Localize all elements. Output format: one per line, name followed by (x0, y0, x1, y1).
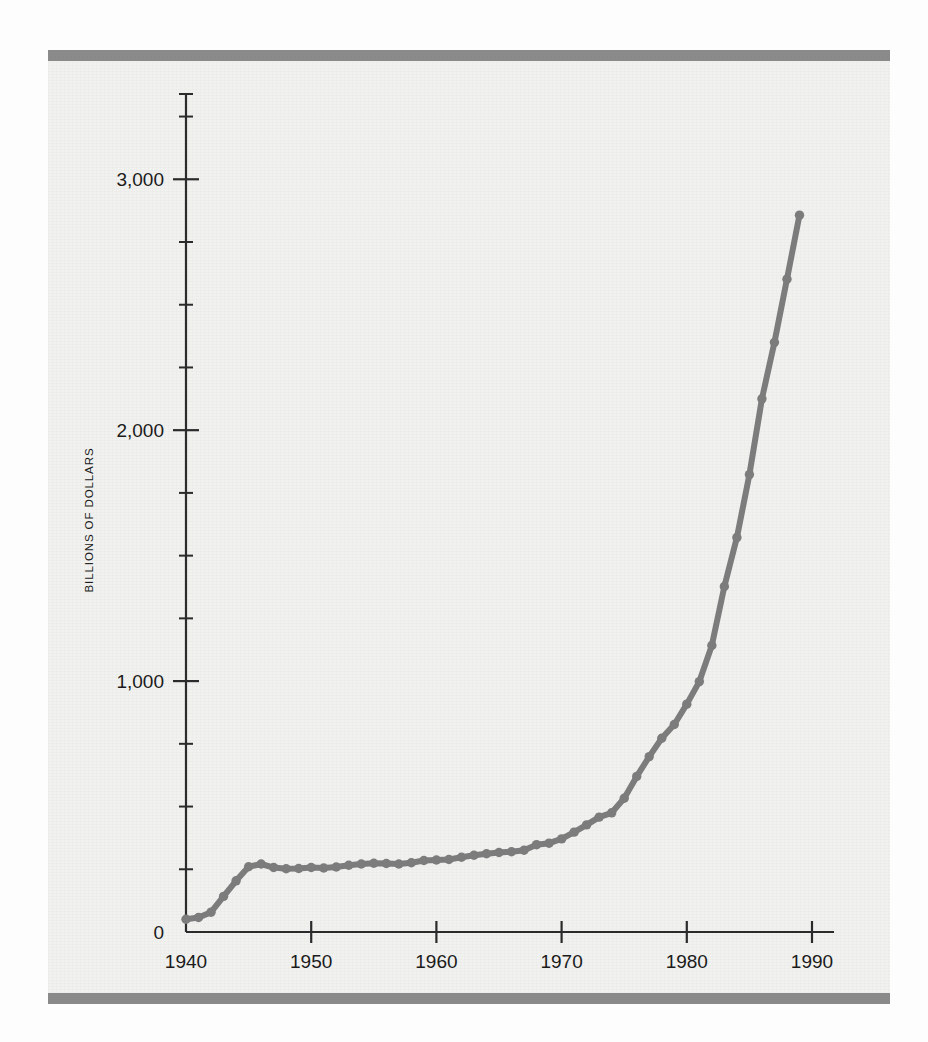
data-point (745, 470, 754, 479)
data-point (594, 812, 603, 821)
data-point (494, 848, 503, 857)
x-tick-label: 1950 (290, 951, 332, 972)
data-point (369, 859, 378, 868)
figure-page: 01,0002,0003,000194019501960197019801990… (0, 0, 928, 1042)
y-axis-title: BILLIONS OF DOLLARS (83, 448, 95, 593)
data-point (206, 907, 215, 916)
data-point (231, 876, 240, 885)
data-point (645, 752, 654, 761)
data-point (469, 851, 478, 860)
data-point (757, 394, 766, 403)
data-point (782, 274, 791, 283)
data-point (344, 861, 353, 870)
data-point (569, 827, 578, 836)
data-point (582, 820, 591, 829)
axis-layer (173, 94, 834, 943)
y-tick-label: 2,000 (116, 420, 164, 441)
data-point (607, 808, 616, 817)
data-point (795, 210, 804, 219)
data-point (482, 849, 491, 858)
data-line-0 (186, 215, 799, 919)
x-tick-label: 1980 (666, 951, 708, 972)
data-point (307, 863, 316, 872)
data-point (332, 862, 341, 871)
bottom-rule (48, 993, 890, 1004)
data-point (720, 582, 729, 591)
data-point (294, 864, 303, 873)
data-point (695, 677, 704, 686)
data-point (407, 858, 416, 867)
data-point (532, 840, 541, 849)
x-tick-label: 1940 (165, 951, 207, 972)
data-point (682, 699, 691, 708)
line-chart: 01,0002,0003,000194019501960197019801990… (0, 0, 928, 1042)
data-point (394, 859, 403, 868)
data-point (432, 855, 441, 864)
x-tick-label: 1970 (540, 951, 582, 972)
y-tick-label: 3,000 (116, 169, 164, 190)
data-point (244, 862, 253, 871)
data-point (457, 853, 466, 862)
data-point (194, 913, 203, 922)
data-point (357, 859, 366, 868)
data-point (382, 859, 391, 868)
data-point (707, 641, 716, 650)
data-point (444, 855, 453, 864)
data-point (507, 847, 516, 856)
data-point (670, 720, 679, 729)
x-tick-label: 1960 (415, 951, 457, 972)
data-point (269, 863, 278, 872)
data-point (632, 772, 641, 781)
x-tick-label: 1990 (791, 951, 833, 972)
data-point (544, 838, 553, 847)
data-point (657, 734, 666, 743)
series-layer (181, 210, 804, 923)
y-tick-label: 0 (153, 922, 164, 943)
y-tick-label: 1,000 (116, 671, 164, 692)
data-point (181, 915, 190, 924)
data-point (770, 338, 779, 347)
data-point (319, 863, 328, 872)
data-point (256, 859, 265, 868)
data-point (620, 794, 629, 803)
data-point (219, 892, 228, 901)
data-point (281, 864, 290, 873)
data-point (557, 834, 566, 843)
data-point (419, 856, 428, 865)
label-layer: 01,0002,0003,000194019501960197019801990… (83, 169, 833, 972)
data-point (519, 846, 528, 855)
data-point (732, 533, 741, 542)
